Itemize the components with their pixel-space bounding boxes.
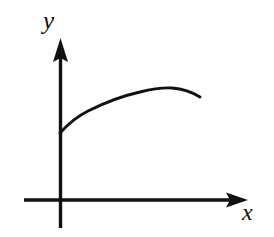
figure-canvas: y x — [0, 0, 274, 237]
axes-and-curve-svg — [0, 0, 274, 237]
y-axis-label: y — [43, 8, 54, 33]
x-axis-group — [24, 193, 248, 208]
plot-curve — [60, 88, 200, 133]
x-axis-label: x — [242, 200, 253, 224]
